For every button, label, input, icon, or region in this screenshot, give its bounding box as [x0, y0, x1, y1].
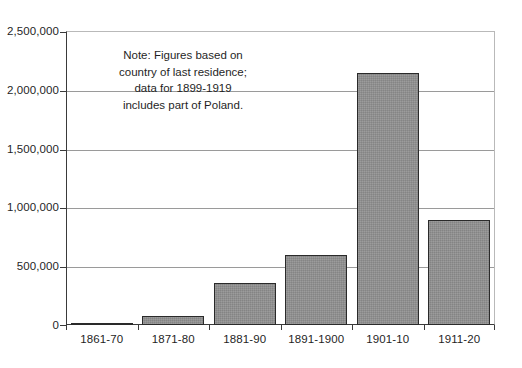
x-tick-mark — [281, 325, 282, 330]
x-axis-labels: 1861-70 1871-80 1881-90 1891-1900 1901-1… — [66, 333, 495, 353]
y-tick-label: 2,000,000 — [7, 84, 59, 96]
x-tick-label: 1891-1900 — [288, 333, 344, 345]
bar-1911-20 — [428, 220, 490, 325]
note-line: data for 1899-1919 — [97, 80, 269, 97]
y-tick-label: 0 — [53, 319, 60, 331]
x-tick-mark — [352, 325, 353, 330]
bar-1901-10 — [357, 73, 419, 325]
note-line: includes part of Poland. — [97, 97, 269, 114]
x-tick-label: 1881-90 — [223, 333, 266, 345]
x-tick-mark — [66, 325, 67, 330]
x-tick-label: 1861-70 — [80, 333, 123, 345]
x-tick-mark — [494, 325, 495, 330]
y-tick-label: 1,500,000 — [7, 143, 59, 155]
x-axis-ticks — [66, 325, 495, 331]
bar-slot — [281, 31, 353, 325]
y-tick-label: 2,500,000 — [7, 25, 59, 37]
x-tick-label: 1901-10 — [366, 333, 409, 345]
bar-slot — [424, 31, 496, 325]
x-tick-label: 1911-20 — [438, 333, 480, 345]
y-tick-label: 1,000,000 — [7, 201, 59, 213]
note-line: Note: Figures based on — [97, 47, 269, 64]
bar-1881-90 — [214, 283, 276, 325]
x-tick-mark — [138, 325, 139, 330]
y-axis-labels: 2,500,000 2,000,000 1,500,000 1,000,000 … — [0, 31, 59, 325]
chart-note: Note: Figures based on country of last r… — [97, 47, 269, 113]
note-line: country of last residence; — [97, 64, 269, 81]
x-tick-mark — [209, 325, 210, 330]
x-tick-mark — [424, 325, 425, 330]
x-tick-label: 1871-80 — [152, 333, 195, 345]
bar-1871-80 — [142, 316, 204, 325]
y-tick-label: 500,000 — [17, 260, 59, 272]
bar-1891-1900 — [285, 255, 347, 325]
bar-slot — [352, 31, 424, 325]
bar-chart: 2,500,000 2,000,000 1,500,000 1,000,000 … — [0, 0, 522, 368]
